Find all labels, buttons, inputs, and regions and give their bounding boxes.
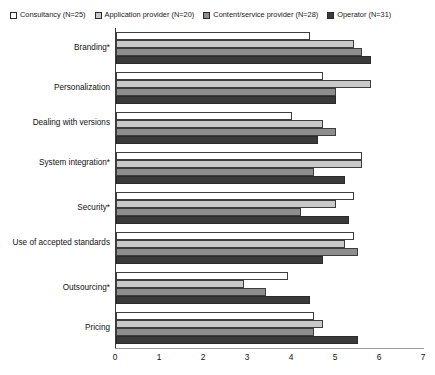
bar [116, 88, 336, 96]
y-axis-label: System integration* [2, 158, 110, 168]
bar [116, 320, 323, 328]
bar [116, 200, 336, 208]
bar [116, 80, 371, 88]
bar [116, 96, 336, 104]
x-axis-line [115, 348, 424, 349]
bar [116, 208, 301, 216]
bar-group [116, 68, 424, 108]
bar [116, 176, 345, 184]
y-axis-label: Personalization [2, 83, 110, 93]
legend-swatch-icon [203, 12, 210, 19]
bar [116, 128, 336, 136]
y-axis-label: Pricing [2, 323, 110, 333]
y-axis-label: Dealing with versions [2, 118, 110, 128]
x-axis-tick: 4 [281, 352, 301, 362]
bar [116, 112, 292, 120]
y-axis-label: Outsourcing* [2, 283, 110, 293]
bar [116, 192, 354, 200]
plot-area [115, 28, 424, 348]
legend-item: Content/service provider (N=28) [203, 10, 318, 20]
bar-group [116, 148, 424, 188]
x-axis-tick: 1 [149, 352, 169, 362]
legend-item: Application provider (N=20) [95, 10, 195, 20]
legend-item-label: Application provider (N=20) [105, 10, 195, 20]
bar [116, 312, 314, 320]
bar [116, 336, 358, 344]
legend-swatch-icon [95, 12, 102, 19]
y-axis-category-labels: Branding*PersonalizationDealing with ver… [0, 28, 110, 348]
y-axis-label: Use of accepted standards [2, 238, 110, 248]
bar [116, 32, 310, 40]
legend-swatch-icon [10, 12, 17, 19]
x-axis-tick: 6 [369, 352, 389, 362]
chart-legend: Consultancy (N=25)Application provider (… [10, 8, 428, 22]
bar [116, 232, 354, 240]
legend-item: Consultancy (N=25) [10, 10, 86, 20]
bar [116, 160, 362, 168]
bar [116, 56, 371, 64]
bar [116, 216, 349, 224]
legend-item-label: Consultancy (N=25) [20, 10, 86, 20]
legend-item-label: Content/service provider (N=28) [213, 10, 318, 20]
bar [116, 272, 288, 280]
bar-chart: Consultancy (N=25)Application provider (… [0, 0, 435, 375]
x-axis-tick: 7 [413, 352, 433, 362]
legend-item-label: Operator (N=31) [337, 10, 391, 20]
bar [116, 168, 314, 176]
bar [116, 72, 323, 80]
bar [116, 248, 358, 256]
legend-swatch-icon [327, 12, 334, 19]
bar [116, 136, 318, 144]
bar [116, 256, 323, 264]
x-axis-tick: 5 [325, 352, 345, 362]
bar-group [116, 308, 424, 348]
bar-group [116, 28, 424, 68]
legend-item: Operator (N=31) [327, 10, 391, 20]
x-axis-tick: 2 [193, 352, 213, 362]
bar [116, 152, 362, 160]
bar [116, 120, 323, 128]
bar-group [116, 228, 424, 268]
bar-group [116, 108, 424, 148]
y-axis-label: Branding* [2, 43, 110, 53]
bar-group [116, 188, 424, 228]
y-axis-label: Security* [2, 203, 110, 213]
x-axis-tick-labels: 01234567 [0, 352, 435, 368]
bar [116, 240, 345, 248]
bar-group [116, 268, 424, 308]
bar [116, 40, 354, 48]
bar [116, 328, 314, 336]
bar [116, 48, 362, 56]
x-axis-tick: 0 [105, 352, 125, 362]
bar [116, 296, 310, 304]
bar [116, 288, 266, 296]
x-axis-tick: 3 [237, 352, 257, 362]
bar [116, 280, 244, 288]
